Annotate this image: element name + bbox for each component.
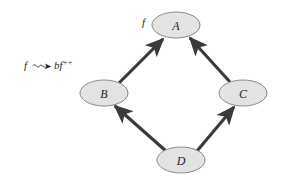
node-a-label: A: [171, 19, 180, 33]
squiggly-arrow-icon: [33, 64, 51, 70]
node-b-label: B: [100, 87, 108, 101]
edge-d-to-b: [115, 106, 166, 151]
rewrite-rule-rhs-superscript: ++: [63, 58, 73, 67]
edge-d-to-c: [197, 107, 234, 151]
node-d-label: D: [176, 154, 186, 168]
node-c[interactable]: C: [219, 80, 267, 106]
node-b[interactable]: B: [80, 80, 128, 106]
diagram-canvas: A B C D f: [0, 0, 281, 180]
node-a[interactable]: A: [152, 12, 200, 38]
rewrite-rule-lhs: f: [24, 59, 29, 71]
rewrite-rule-annotation: f bf++: [24, 58, 73, 71]
node-d[interactable]: D: [157, 147, 205, 173]
nodes-layer: A B C D: [80, 12, 267, 173]
edges-layer: [115, 38, 234, 151]
edge-b-to-a: [119, 39, 163, 83]
rewrite-rule-rhs: bf++: [54, 58, 73, 71]
edge-c-to-a: [190, 38, 230, 82]
annotations-layer: f f bf++: [24, 16, 147, 71]
node-a-marker-label: f: [142, 16, 147, 28]
graph-svg: A B C D f: [0, 0, 281, 180]
node-c-label: C: [239, 87, 248, 101]
